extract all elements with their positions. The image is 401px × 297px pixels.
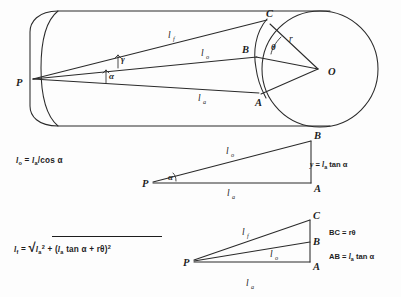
note-ab-tail: tan α [356, 252, 374, 261]
t3-point-label-B: B [312, 236, 320, 247]
main-length-label-r: r [289, 34, 293, 44]
eq1-lhs-sub: o [18, 160, 22, 166]
note-ab-equals: = [342, 252, 346, 261]
note-ab-sub: a [351, 256, 354, 262]
eq2-term1-sup: 2 [42, 244, 45, 250]
svg-text:l: l [270, 249, 273, 259]
main-point-label-A: A [254, 97, 262, 108]
eq2-radical-sign: √ [29, 240, 36, 255]
t2-point-label-P: P [142, 178, 149, 189]
note-bc-lhs: BC [329, 228, 340, 237]
note-bc-equals: = [342, 228, 346, 237]
svg-text:a: a [203, 98, 206, 105]
eq1-tail: /cos α [38, 156, 63, 165]
cylinder-right-circle [262, 11, 378, 127]
t3-length-label-lf: l f [242, 227, 250, 239]
main-angle-label-gamma: γ [121, 54, 125, 64]
main-length-label-lf: l f [168, 30, 176, 42]
svg-text:l: l [198, 93, 201, 103]
triangle-3: P C B A l f l o l a [183, 210, 321, 290]
t3-point-label-A: A [312, 261, 320, 272]
svg-text:o: o [206, 53, 209, 60]
note-ab-lhs: AB [329, 252, 340, 261]
t3-point-label-P: P [183, 257, 190, 268]
svg-text:f: f [173, 35, 176, 42]
t3-length-label-lo: l o [270, 249, 278, 261]
note-y-lhs: y [310, 160, 313, 169]
svg-text:a: a [232, 193, 235, 200]
eq2-term2-tail: tan α + rθ [66, 245, 105, 254]
t3-point-label-C: C [313, 210, 321, 221]
eq2-term2-sub: a [60, 249, 63, 255]
main-angle-label-theta: θ [271, 42, 276, 52]
main-angle-label-alpha: α [109, 71, 115, 81]
t3-segment-P-C [194, 220, 310, 260]
main-point-label-C: C [266, 8, 274, 19]
main-diagram: P C B A O l f l o l a r θ γ α [16, 8, 378, 127]
eq2-term2-sup: 2 [108, 244, 111, 250]
svg-text:l: l [242, 227, 245, 237]
note-ab: AB = la tan α [329, 252, 374, 262]
main-point-label-B: B [241, 44, 249, 55]
note-y-equals-sign: = [316, 160, 320, 169]
t2-length-label-la: l a [227, 188, 235, 200]
svg-text:a: a [251, 283, 254, 290]
segment-P-C [33, 20, 267, 79]
main-point-label-P: P [16, 77, 23, 88]
segment-P-A [33, 79, 259, 93]
segment-P-B [33, 57, 257, 79]
cylinder-left-cap-arc [41, 11, 58, 126]
t2-segment-P-B [153, 141, 311, 182]
eq2-lhs-sub: f [16, 249, 18, 255]
svg-text:l: l [168, 30, 171, 40]
t2-length-label-lo: l o [226, 146, 234, 158]
t3-segment-P-B [194, 242, 310, 261]
svg-text:o: o [231, 151, 234, 158]
svg-text:f: f [247, 232, 250, 239]
equation-lf: lf = √la2 + (la tan α + rθ)2 [14, 240, 111, 255]
eq1-equals: = [25, 156, 30, 165]
t2-point-label-A: A [313, 183, 321, 194]
svg-text:l: l [246, 278, 249, 288]
note-y-equals: y = la tan α [310, 160, 347, 170]
t3-length-label-la: l a [246, 278, 254, 290]
svg-text:l: l [201, 48, 204, 58]
svg-text:o: o [275, 254, 278, 261]
segment-O-A [261, 69, 318, 94]
eq2-equals: = [21, 245, 26, 254]
note-y-sub: a [324, 164, 327, 170]
figure-page: P C B A O l f l o l a r θ γ α [0, 0, 401, 297]
equation-lo: lo = la/cos α [16, 156, 63, 166]
main-point-label-O: O [328, 66, 336, 77]
svg-text:l: l [226, 146, 229, 156]
t2-point-label-B: B [313, 130, 321, 141]
segment-O-B [256, 57, 318, 69]
eq2-radical-vinculum [52, 236, 162, 237]
main-length-label-lo: l o [201, 48, 209, 60]
note-bc-tail: rθ [349, 228, 356, 237]
eq2-plus: + [47, 245, 52, 254]
segment-O-C [270, 24, 318, 69]
note-bc: BC = rθ [329, 228, 356, 237]
main-length-label-la: l a [198, 93, 206, 105]
triangle-2: P B A l o l a α [142, 130, 321, 200]
note-y-tail: tan α [329, 160, 347, 169]
svg-text:l: l [227, 188, 230, 198]
